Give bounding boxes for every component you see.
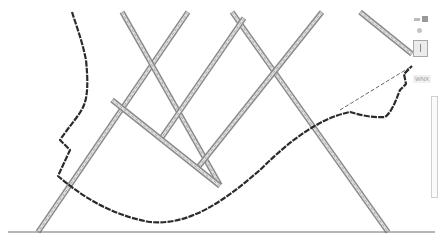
road-diagonal-3[interactable]	[232, 12, 388, 232]
road-cross-1[interactable]	[112, 100, 220, 186]
layers-box[interactable]	[413, 40, 428, 57]
zoom-controls[interactable]	[414, 16, 430, 22]
road-diagonal-5[interactable]	[196, 12, 322, 170]
map-label: WNX	[413, 75, 431, 83]
road-diagonal-1[interactable]	[38, 12, 188, 232]
scroll-panel[interactable]	[431, 96, 438, 198]
map-canvas[interactable]	[0, 0, 443, 243]
zoom-in-icon[interactable]	[422, 16, 428, 22]
pegman-icon[interactable]	[417, 28, 422, 33]
zoom-out-icon[interactable]	[414, 18, 420, 21]
road-diagonal-6[interactable]	[360, 12, 412, 54]
roads-layer	[38, 12, 412, 232]
